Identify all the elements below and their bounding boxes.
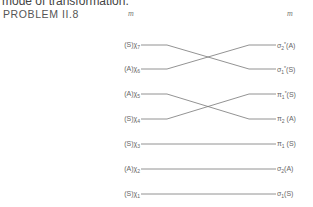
orbital-index: 4	[137, 118, 140, 124]
left-label-row-2: (A)χ6	[100, 64, 140, 76]
symmetry-label: (S)	[284, 190, 293, 197]
left-label-row-7: (S)χ1	[100, 189, 140, 201]
orbital-index: 5	[137, 93, 140, 99]
orbital-index: 6	[137, 68, 140, 74]
left-label-row-3: (A)χ5	[100, 89, 140, 101]
right-label-row-1: σ2*(A)	[277, 40, 295, 53]
symmetry-label: (S)	[286, 66, 295, 73]
right-label-row-5: π1 (S)	[277, 139, 296, 151]
symmetry-label: (A)	[286, 42, 295, 49]
left-label-row-6: (A)χ2	[100, 164, 140, 176]
correlation-line-2	[141, 45, 276, 69]
symmetry-label: (S)	[124, 140, 133, 147]
right-label-row-4: π2 (A)	[277, 114, 296, 126]
orbital-index: 2	[137, 168, 140, 174]
orbital-index: 7	[137, 44, 140, 50]
symmetry-label: (A)	[124, 90, 133, 97]
left-label-row-4: (S)χ4	[100, 114, 140, 126]
symmetry-label: (S)	[124, 190, 133, 197]
right-label-row-7: σ1(S)	[277, 189, 293, 201]
orbital-index: 1	[137, 193, 140, 199]
left-label-row-1: (S)χ7	[100, 40, 140, 52]
orbital-index: 3	[137, 143, 140, 149]
symmetry-label: (S)	[287, 91, 296, 98]
right-label-row-3: π1*(S)	[277, 89, 296, 102]
symmetry-label: (A)	[284, 165, 293, 172]
symmetry-label: (S)	[124, 41, 133, 48]
symmetry-label: (S)	[124, 115, 133, 122]
symmetry-label: (A)	[124, 65, 133, 72]
right-label-row-2: σ1*(S)	[277, 64, 295, 77]
correlation-line-4	[141, 94, 276, 119]
symmetry-label: (A)	[285, 115, 296, 122]
symmetry-label: (S)	[285, 140, 296, 147]
correlation-lines	[0, 0, 313, 207]
right-label-row-6: σ2(A)	[277, 164, 293, 176]
symmetry-label: (A)	[124, 165, 133, 172]
left-label-row-5: (S)χ3	[100, 139, 140, 151]
